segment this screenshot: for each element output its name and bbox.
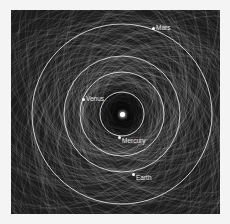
mercury-dot [118,136,121,139]
mars-dot [152,27,155,30]
venus-dot [82,98,85,101]
earth-dot [132,173,135,176]
mercury-label: Mercury [122,137,145,144]
sun-icon [120,112,125,117]
mars-label: Mars [156,24,170,31]
orbit-diagram: Mercury Venus Earth Mars [11,10,220,214]
venus-label: Venus [86,95,104,102]
earth-label: Earth [136,174,152,181]
asteroid-orbits [11,10,220,214]
